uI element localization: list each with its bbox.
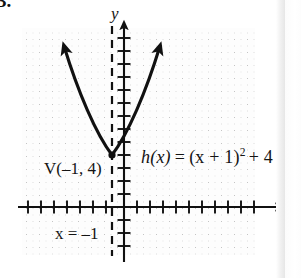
parabola-figure: 3. xyxy=(0,0,301,278)
equation-equals: = xyxy=(175,147,185,167)
x-axis-label: x xyxy=(282,204,290,221)
equation-body-close: + 4 xyxy=(249,147,273,167)
vertex-point-marker xyxy=(108,151,115,158)
grid-background xyxy=(22,28,255,255)
equation-body-open: (x + 1) xyxy=(189,147,240,167)
equation-function-name: h(x) xyxy=(141,147,171,167)
graph-canvas xyxy=(0,0,301,278)
axis-of-symmetry-label: x = –1 xyxy=(55,225,99,242)
equation-exponent: 2 xyxy=(240,146,246,158)
equation-label: h(x)=(x + 1)2+ 4 xyxy=(141,148,273,166)
y-axis-label: y xyxy=(111,5,119,22)
vertex-label: V(–1, 4) xyxy=(44,160,102,177)
